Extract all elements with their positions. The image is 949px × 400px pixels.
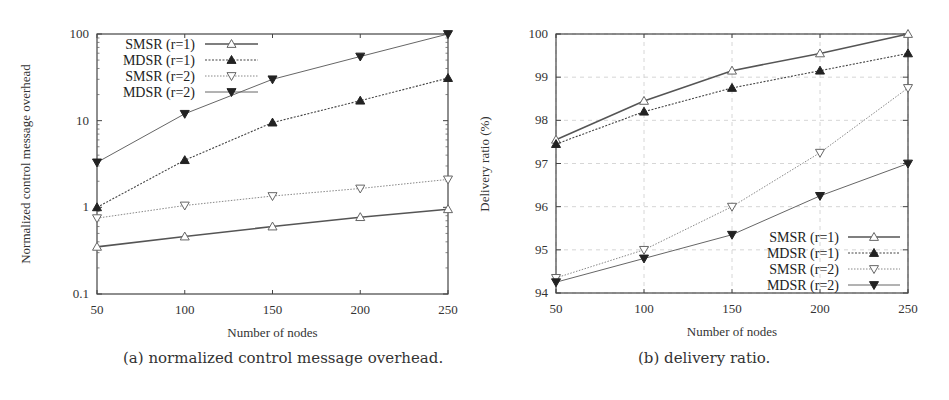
y-tick-label: 97 [535, 156, 549, 171]
figure: 501001502002500.1110100Number of nodesNo… [0, 0, 949, 400]
x-tick-label: 250 [438, 302, 458, 317]
triangle-up-filled-marker-icon [93, 203, 102, 211]
triangle-up-filled-marker-icon [640, 107, 649, 115]
y-axis-label: Delivery ratio (%) [477, 116, 492, 211]
triangle-down-filled-marker-icon [552, 279, 561, 287]
x-tick-label: 150 [263, 302, 283, 317]
legend-label: SMSR (r=1) [769, 230, 839, 246]
x-tick-label: 50 [91, 302, 104, 317]
x-axis-label: Number of nodes [687, 324, 777, 339]
triangle-down-open-marker-icon [444, 176, 453, 184]
triangle-down-filled-marker-icon [268, 76, 277, 84]
legend-label: MDSR (r=2) [123, 85, 195, 101]
x-tick-label: 200 [351, 302, 371, 317]
y-tick-label: 96 [535, 199, 549, 214]
y-tick-label: 100 [529, 26, 549, 41]
x-tick-label: 100 [634, 301, 654, 316]
y-tick-label: 99 [535, 69, 548, 84]
legend-label: MDSR (r=2) [767, 278, 839, 294]
triangle-up-filled-marker-icon [444, 74, 453, 82]
y-tick-label: 94 [535, 285, 549, 300]
x-tick-label: 150 [722, 301, 742, 316]
x-tick-label: 200 [810, 301, 830, 316]
y-tick-label: 1 [83, 199, 90, 214]
triangle-down-filled-marker-icon [180, 110, 189, 118]
legend-label: MDSR (r=1) [123, 53, 195, 69]
triangle-down-open-marker-icon [728, 203, 737, 211]
triangle-down-open-marker-icon [93, 215, 102, 223]
y-tick-label: 100 [70, 26, 90, 41]
legend-label: SMSR (r=2) [125, 69, 195, 85]
caption-b: (b) delivery ratio. [638, 349, 770, 367]
triangle-down-open-marker-icon [227, 73, 236, 81]
x-tick-label: 250 [898, 301, 918, 316]
triangle-down-filled-marker-icon [227, 89, 236, 97]
triangle-down-open-marker-icon [870, 266, 879, 274]
legend-label: SMSR (r=1) [125, 37, 195, 53]
x-tick-label: 50 [550, 301, 563, 316]
triangle-up-filled-marker-icon [180, 156, 189, 164]
y-tick-label: 0.1 [73, 286, 89, 301]
y-tick-label: 95 [535, 242, 548, 257]
triangle-down-filled-marker-icon [816, 193, 825, 201]
series-0 [93, 205, 453, 250]
triangle-down-filled-marker-icon [93, 159, 102, 167]
chart-a: 501001502002500.1110100Number of nodesNo… [18, 26, 458, 340]
triangle-down-open-marker-icon [640, 246, 649, 254]
triangle-up-filled-marker-icon [904, 49, 913, 57]
triangle-down-open-marker-icon [268, 193, 277, 201]
chart-b: 50100150200250949596979899100Number of n… [477, 26, 918, 339]
triangle-down-open-marker-icon [904, 85, 913, 93]
x-tick-label: 100 [175, 302, 195, 317]
legend: SMSR (r=1)MDSR (r=1)SMSR (r=2)MDSR (r=2) [767, 230, 900, 294]
legend: SMSR (r=1)MDSR (r=1)SMSR (r=2)MDSR (r=2) [123, 37, 258, 101]
triangle-down-open-marker-icon [816, 149, 825, 157]
triangle-up-filled-marker-icon [227, 56, 236, 64]
triangle-down-filled-marker-icon [904, 160, 913, 168]
legend-label: SMSR (r=2) [769, 262, 839, 278]
triangle-up-filled-marker-icon [268, 118, 277, 126]
y-tick-label: 98 [535, 112, 548, 127]
x-axis-label: Number of nodes [227, 325, 317, 340]
caption-a: (a) normalized control message overhead. [123, 349, 443, 367]
y-axis-label: Normalized control message overhead [18, 64, 33, 264]
series-2 [93, 176, 453, 223]
triangle-down-filled-marker-icon [870, 282, 879, 290]
legend-label: MDSR (r=1) [767, 246, 839, 262]
triangle-up-open-marker-icon [444, 205, 453, 213]
triangle-up-filled-marker-icon [728, 83, 737, 91]
y-tick-label: 10 [76, 113, 89, 128]
